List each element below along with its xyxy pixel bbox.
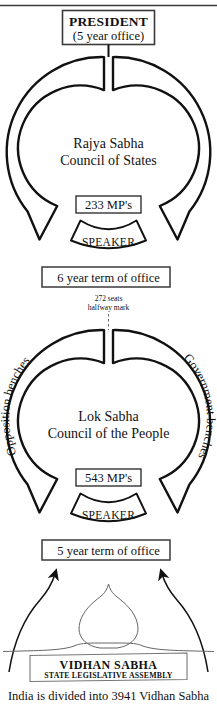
- halfway-mark-line1: 272 seats: [95, 294, 123, 303]
- diagram-canvas: PRESIDENT (5 year office) Rajya Sabha Co…: [0, 0, 217, 710]
- halfway-mark-line2: halfway mark: [88, 303, 130, 312]
- diagram-caption: India is divided into 3941 Vidhan Sabha: [8, 689, 210, 703]
- rajya-sabha-term-label: 6 year term of office: [57, 271, 160, 285]
- president-title: PRESIDENT: [69, 14, 148, 29]
- vidhan-sabha-title: VIDHAN SABHA: [60, 658, 158, 672]
- rajya-sabha-name-line1: Rajya Sabha: [73, 136, 144, 151]
- vidhan-sabha-dome: [79, 584, 138, 648]
- rajya-sabha-seats-label: 233 MP's: [85, 198, 132, 212]
- parliament-structure-diagram: PRESIDENT (5 year office) Rajya Sabha Co…: [0, 0, 217, 710]
- lok-sabha-name-line2: Council of the People: [48, 426, 170, 441]
- lok-sabha-seats-label: 543 MP's: [85, 471, 132, 485]
- lok-sabha-term-label: 5 year term of office: [57, 544, 160, 558]
- vidhan-sabha-subtitle: STATE LEGISLATIVE ASSEMBLY: [44, 671, 173, 680]
- rajya-sabha-name-line2: Council of States: [60, 153, 156, 168]
- lok-sabha-name-line1: Lok Sabha: [78, 409, 139, 424]
- rajya-sabha-speaker-label: SPEAKER: [82, 236, 135, 248]
- lok-sabha-speaker-label: SPEAKER: [82, 509, 135, 521]
- president-subtitle: (5 year office): [73, 29, 144, 43]
